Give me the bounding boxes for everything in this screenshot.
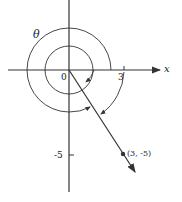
point-3-neg5 [121,152,125,156]
x-tick-label-3: 3 [118,73,124,82]
terminal-ray [69,70,135,172]
y-tick-label-neg5: -5 [54,151,63,160]
origin-label: 0 [61,73,67,82]
diagram-canvas: θ x 0 3 -5 (3, -5) [0,0,182,202]
x-axis-label: x [164,64,170,74]
diagram-svg [0,0,182,202]
angle-label-theta: θ [33,29,40,40]
point-label: (3, -5) [127,150,151,158]
